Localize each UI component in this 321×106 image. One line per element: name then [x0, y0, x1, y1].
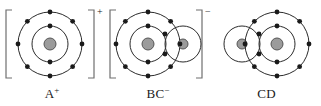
electron-b-2-2 — [123, 19, 128, 24]
species-cd-svg — [212, 0, 321, 84]
species-bc-svg: − — [104, 0, 212, 84]
species-a: + A+ — [0, 0, 104, 106]
electron-b-2-8 — [168, 19, 173, 24]
nucleus-a — [44, 38, 56, 50]
electron-a-2-5 — [48, 74, 53, 79]
electron-b-2-5 — [146, 74, 151, 79]
electron-a-2-7 — [80, 42, 85, 47]
shared-electron-top — [163, 32, 168, 37]
species-a-figure: + — [0, 0, 104, 84]
electron-b-2-6 — [168, 64, 173, 69]
species-cd-caption: CD — [212, 82, 321, 102]
electron-shell-diagram: + A+ − BC− CD — [0, 0, 321, 106]
species-a-caption-text: A — [45, 86, 55, 101]
electron-b-2-1 — [146, 10, 151, 15]
electron-b-2-4 — [123, 64, 128, 69]
electron-d-2-7 — [307, 42, 312, 47]
electron-a-2-1 — [48, 10, 53, 15]
electron-b-1-2 — [146, 60, 151, 65]
species-a-svg: + — [0, 0, 104, 84]
electron-d-2-8 — [297, 19, 302, 24]
species-bc-caption-text: BC — [147, 86, 165, 101]
electron-a-2-8 — [70, 19, 75, 24]
electron-d-2-1 — [275, 10, 280, 15]
electron-a-2-6 — [70, 64, 75, 69]
bracket-left — [6, 10, 12, 78]
nucleus-b — [142, 38, 154, 50]
electron-a-1-2 — [48, 60, 53, 65]
species-a-caption: A+ — [0, 82, 104, 102]
bracket-charge: + — [97, 6, 103, 17]
electron-d-2-5 — [275, 74, 280, 79]
species-cd-figure — [212, 0, 321, 84]
electron-a-1-1 — [48, 24, 53, 29]
species-cd-caption-text: CD — [257, 86, 275, 101]
bracket-right — [88, 10, 94, 78]
bracket-charge: − — [205, 6, 211, 17]
electron-d-2-6 — [297, 64, 302, 69]
species-bc: − BC− — [104, 0, 212, 106]
electron-a-2-3 — [16, 42, 21, 47]
electron-a-2-4 — [25, 64, 30, 69]
electron-b-2-3 — [114, 42, 119, 47]
electron-d-2-4 — [252, 64, 257, 69]
species-a-caption-charge: + — [54, 85, 59, 95]
electron-d-2-2 — [252, 19, 257, 24]
electron-a-2-2 — [25, 19, 30, 24]
species-bc-caption-charge: − — [164, 85, 169, 95]
electron-d-1-1 — [275, 24, 280, 29]
electron-d-1-2 — [275, 60, 280, 65]
electron-d-2-3 — [243, 42, 248, 47]
shared-electron-bottom — [163, 52, 168, 57]
shared-electron-top — [257, 32, 262, 37]
shared-electron-bottom — [257, 52, 262, 57]
species-bc-figure: − — [104, 0, 212, 84]
species-bc-caption: BC− — [104, 82, 212, 102]
nucleus-d — [271, 38, 283, 50]
electron-b-1-1 — [146, 24, 151, 29]
electron-b-2-7 — [178, 42, 183, 47]
species-cd: CD — [212, 0, 321, 106]
